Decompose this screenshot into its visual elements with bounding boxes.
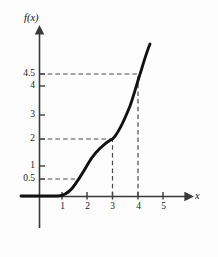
y-axis-ticks [40, 74, 46, 179]
y-tick-label-4: 4 [30, 81, 35, 91]
y-axis-title: f(x) [24, 13, 39, 24]
y-tick-label-3: 3 [30, 110, 35, 120]
x-tick-label-1: 1 [58, 202, 67, 212]
y-tick-label-4-5: 4.5 [23, 69, 35, 79]
x-tick-label-5: 5 [159, 202, 168, 212]
guide-lines [40, 74, 138, 196]
y-tick-label-2: 2 [30, 134, 35, 144]
y-tick-label-1: 1 [30, 161, 35, 171]
plot-canvas [0, 0, 218, 257]
x-tick-label-2: 2 [83, 202, 92, 212]
y-tick-label-0-5: 0.5 [23, 174, 35, 184]
x-axis-title: x [195, 191, 200, 202]
x-tick-label-3: 3 [108, 202, 117, 212]
x-tick-label-4: 4 [134, 202, 143, 212]
function-graph-figure: f(x) x 4.5 4 3 2 1 0.5 1 2 3 4 5 [0, 0, 218, 257]
curve-path [21, 44, 150, 196]
function-curve [21, 44, 150, 196]
